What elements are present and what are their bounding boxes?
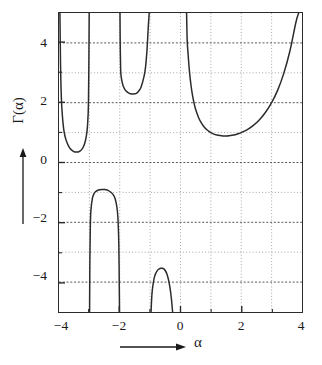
y-axis-tick-labels: 4 2 0 −2 −4 bbox=[0, 0, 56, 365]
x-tick-label: 4 bbox=[298, 318, 305, 334]
y-tick-label: 2 bbox=[40, 93, 47, 109]
y-tick-label: 4 bbox=[40, 35, 47, 51]
curve-branch bbox=[90, 189, 120, 312]
curve-branch bbox=[60, 13, 89, 152]
x-tick-label: 2 bbox=[238, 318, 245, 334]
x-tick-label: −2 bbox=[112, 318, 126, 334]
y-tick-label: 0 bbox=[40, 152, 47, 168]
x-tick-label: −4 bbox=[54, 318, 68, 334]
gamma-curve-layer bbox=[59, 13, 302, 312]
curve-branch bbox=[151, 268, 173, 312]
x-axis-label-group: α bbox=[120, 336, 230, 362]
x-axis-title: α bbox=[194, 334, 202, 351]
plot-area bbox=[58, 12, 303, 313]
curve-branch bbox=[120, 13, 149, 94]
x-axis-right-arrow-icon bbox=[120, 340, 186, 354]
y-tick-label: −4 bbox=[33, 268, 47, 284]
y-tick-label: −2 bbox=[33, 210, 47, 226]
gamma-function-figure: Γ(α) 4 2 0 −2 −4 −4 −2 0 2 4 α bbox=[0, 0, 322, 365]
x-tick-label: 0 bbox=[177, 318, 184, 334]
curve-branch bbox=[187, 13, 299, 136]
